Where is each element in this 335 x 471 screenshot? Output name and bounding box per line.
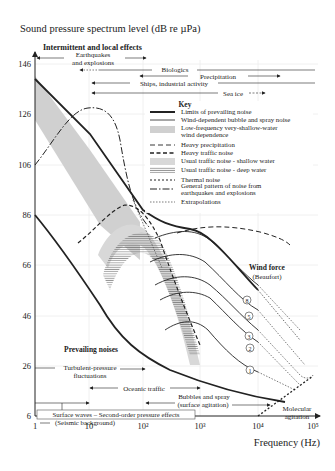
wind-labels: 8 5 3 2 1 [243,296,254,374]
x-axis-label: Frequency (Hz) [254,437,321,449]
svg-text:146: 146 [18,59,31,69]
svg-text:Turbulent-pressure: Turbulent-pressure [63,364,116,372]
svg-text:10⁵: 10⁵ [307,421,319,431]
svg-text:2: 2 [249,346,252,352]
wind-force-title: Wind force [249,263,285,272]
svg-text:46: 46 [23,311,32,321]
svg-text:10²: 10² [137,421,149,431]
svg-text:Heavy precipitation: Heavy precipitation [181,141,235,148]
legend: Key Limits of prevailing noise Wind-depe… [145,100,313,213]
svg-text:26: 26 [23,361,32,371]
svg-text:3: 3 [248,334,251,340]
svg-text:fluctuations: fluctuations [73,372,106,380]
svg-text:Earthquakes: Earthquakes [76,51,111,59]
svg-text:wind dependence: wind dependence [181,131,228,138]
svg-text:earthquakes and explosions: earthquakes and explosions [181,189,256,196]
svg-text:Oceanic traffic: Oceanic traffic [123,385,165,393]
svg-text:Limits of prevailing noise: Limits of prevailing noise [181,108,251,115]
svg-text:Biologics: Biologics [162,66,189,74]
svg-text:106: 106 [18,160,31,170]
svg-text:Bubbles and spray: Bubbles and spray [178,393,230,401]
ambient-noise-chart: 8 5 3 2 1 Sound pressure spectrum level … [0,0,335,471]
svg-text:5: 5 [248,314,251,320]
svg-text:10³: 10³ [194,421,206,431]
wind-force-subtitle: (Beaufort) [252,273,282,281]
svg-text:8: 8 [246,298,249,304]
svg-text:1: 1 [33,421,37,431]
svg-text:Molecular: Molecular [283,405,312,413]
svg-text:Heavy traffic noise: Heavy traffic noise [181,149,233,156]
svg-text:Sea ice: Sea ice [223,90,243,98]
svg-text:10⁴: 10⁴ [252,421,264,431]
svg-text:66: 66 [23,260,32,270]
svg-text:Surface waves – Second-order p: Surface waves – Second-order pressure ef… [53,411,180,418]
wind-force-extrapolations [258,285,313,390]
svg-text:1: 1 [249,368,252,374]
svg-text:agitation: agitation [285,413,310,421]
deep-water-traffic-band [103,233,200,355]
svg-text:Low-frequency very-shallow-wat: Low-frequency very-shallow-water [181,124,278,131]
svg-text:General pattern of noise from: General pattern of noise from [181,182,262,189]
svg-text:Usual traffic noise - deep wat: Usual traffic noise - deep water [181,166,267,173]
svg-text:Wind-dependent bubble and spra: Wind-dependent bubble and spray noise [181,116,290,123]
svg-text:Usual traffic noise - shallow: Usual traffic noise - shallow water [181,157,275,164]
svg-text:6: 6 [27,411,31,421]
prevailing-title: Prevailing noises [64,345,118,354]
y-axis-label: Sound pressure spectrum level (dB re µPa… [20,23,201,35]
upper-extrapolation [258,290,300,340]
svg-text:126: 126 [18,109,31,119]
svg-text:(surface agitation): (surface agitation) [177,401,229,409]
svg-text:Ships, industrial activity: Ships, industrial activity [140,80,209,88]
svg-text:Extrapolations: Extrapolations [181,198,221,205]
y-tick-labels: 146 126 106 86 66 46 26 6 [18,59,31,421]
svg-text:86: 86 [23,210,32,220]
svg-text:and explosions: and explosions [72,59,114,67]
svg-text:(Seismic background): (Seismic background) [55,419,115,427]
